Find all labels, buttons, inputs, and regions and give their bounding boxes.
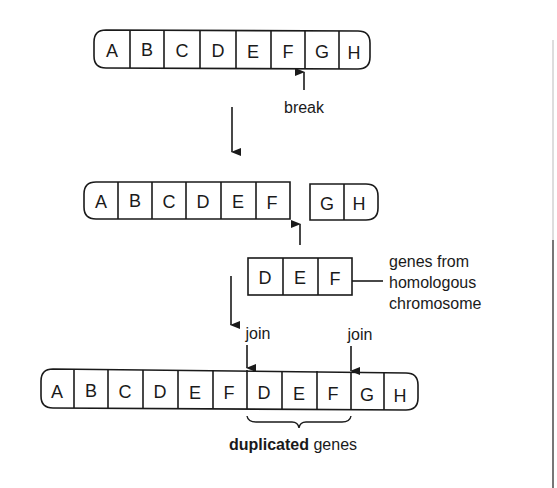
insert-annotation: genes from homologous chromosome xyxy=(389,253,482,312)
gene-label: A xyxy=(95,192,107,212)
gene-label: H xyxy=(353,194,366,214)
gene-label: B xyxy=(85,381,97,401)
join-label-left: join xyxy=(245,325,271,342)
duplicated-rest: genes xyxy=(309,436,357,453)
gene-label: G xyxy=(360,385,374,405)
gene-label-duplicated: D xyxy=(258,383,271,403)
annotation-line: chromosome xyxy=(389,295,482,312)
gene-label: F xyxy=(283,42,294,62)
gene-label: E xyxy=(189,383,201,403)
gene-label: D xyxy=(154,382,167,402)
homologous-insert-labels: D E F xyxy=(259,268,341,289)
gene-label: F xyxy=(267,193,278,213)
gene-label: G xyxy=(320,194,334,214)
annotation-line: genes from xyxy=(389,253,469,270)
gene-label-duplicated: F xyxy=(328,384,339,404)
gene-label: B xyxy=(141,40,153,60)
gene-label: E xyxy=(232,192,244,212)
break-label: break xyxy=(284,99,325,116)
gene-label: D xyxy=(259,268,272,288)
gene-label: H xyxy=(394,386,407,406)
gene-label: H xyxy=(348,43,361,63)
gene-label: B xyxy=(129,191,141,211)
gene-label: E xyxy=(294,268,306,288)
gene-label: C xyxy=(119,382,132,402)
join-label-right: join xyxy=(347,326,373,343)
gene-label: F xyxy=(330,269,341,289)
gene-label: D xyxy=(197,192,210,212)
broken-chromosome-left xyxy=(84,182,290,219)
gene-label: E xyxy=(247,42,259,62)
gene-label: A xyxy=(106,41,118,61)
gene-label: C xyxy=(176,41,189,61)
annotation-line: homologous xyxy=(389,274,476,291)
gene-label: F xyxy=(224,383,235,403)
duplicated-brace-icon xyxy=(247,416,351,428)
gene-label: A xyxy=(51,382,63,402)
gene-label: G xyxy=(315,42,329,62)
gene-label-duplicated: E xyxy=(293,384,305,404)
gene-label: D xyxy=(212,41,225,61)
duplicated-genes-caption: duplicated genes xyxy=(229,436,357,453)
gene-duplication-diagram: A B C D E F G H break A B C D E F G H xyxy=(0,0,557,488)
duplicated-bold: duplicated xyxy=(229,436,309,453)
original-chromosome-labels: A B C D E F G H xyxy=(106,40,361,63)
broken-chromosome-right-labels: G H xyxy=(320,194,366,214)
result-chromosome-labels: A B C D E F D E F G H xyxy=(51,381,407,406)
gene-label: C xyxy=(163,192,176,212)
